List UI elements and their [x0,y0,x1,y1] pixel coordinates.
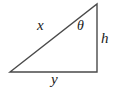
angle-label-theta: θ [77,19,84,33]
triangle-graphic [0,0,118,93]
base-label-y: y [51,72,58,87]
vertical-side-label-h: h [101,31,109,46]
triangle-diagram: x θ h y [0,0,118,93]
hypotenuse-label-x: x [37,18,44,33]
right-triangle-shape [10,4,97,72]
